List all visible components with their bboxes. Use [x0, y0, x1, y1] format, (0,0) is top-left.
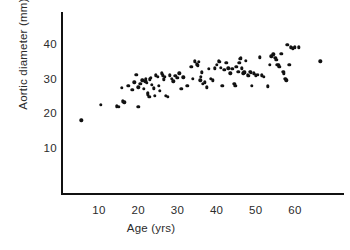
x-tick-label: 50: [249, 204, 262, 216]
x-axis-title: Age (yrs): [0, 222, 350, 234]
x-axis-tick-labels: 102030405060: [0, 0, 350, 250]
x-tick-label: 60: [288, 204, 301, 216]
x-tick-label: 30: [171, 204, 184, 216]
x-axis-title-text: Age (yrs): [127, 222, 175, 234]
x-tick-label: 10: [92, 204, 105, 216]
scatter-plot-figure: 10203040 102030405060 Age (yrs) Aortic d…: [0, 0, 350, 250]
y-axis-title: Aortic diameter (mm): [17, 0, 29, 124]
x-tick-label: 40: [210, 204, 223, 216]
x-tick-label: 20: [131, 204, 144, 216]
